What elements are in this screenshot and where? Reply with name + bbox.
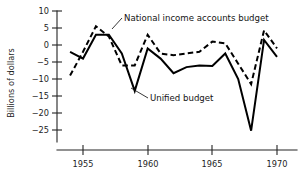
y-tick-label-m5: −5 [37,57,49,67]
annotation-unified-budget-leader [131,88,148,98]
y-tick-label-10: 10 [39,6,49,16]
x-axis-group: 1955 1960 1965 1970 [57,145,297,169]
x-tick-label-1970: 1970 [267,159,288,169]
x-tick-label-1965: 1965 [202,159,223,169]
x-tick-label-1955: 1955 [73,159,94,169]
annotation-unified-budget-label: Unified budget [150,93,214,103]
x-tick-label-1960: 1960 [138,159,159,169]
y-tick-label-m10: −10 [32,74,49,84]
y-tick-label-0: 0 [44,40,49,50]
budget-line-chart: 10 5 0 −5 −10 −15 −20 −25 Billions of do… [0,0,304,186]
y-axis-group: 10 5 0 −5 −10 −15 −20 −25 Billions of do… [6,6,62,142]
y-tick-label-m15: −15 [32,91,49,101]
series-unified-budget [70,35,277,131]
y-axis-title: Billions of dollars [6,48,16,118]
chart-figure: 10 5 0 −5 −10 −15 −20 −25 Billions of do… [0,0,304,186]
y-tick-label-5: 5 [44,23,49,33]
y-tick-label-m25: −25 [32,125,49,135]
annotation-national-income-leader [112,18,122,29]
y-tick-label-m20: −20 [32,108,49,118]
annotation-unified-budget: Unified budget [131,88,214,103]
annotation-national-income-label: National income accounts budget [124,13,269,23]
annotation-national-income: National income accounts budget [112,13,269,29]
